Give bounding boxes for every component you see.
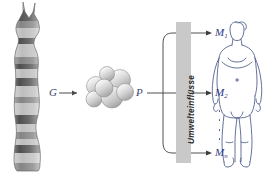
protein-to-manifestation-lines <box>147 33 176 153</box>
m1-index: 1 <box>224 32 227 39</box>
gene-to-protein-arrow <box>59 91 77 96</box>
protein-label: P <box>136 87 143 98</box>
m2-base: M <box>215 86 224 98</box>
m2-index: 2 <box>224 92 227 99</box>
manifestation-label-m1: M1 <box>215 27 228 40</box>
protein-space-filling-model <box>86 67 134 109</box>
m1-base: M <box>215 26 224 38</box>
mn-index: n <box>224 152 227 159</box>
environment-influence-label: Umwelteinflüsse <box>187 75 196 144</box>
diagram-canvas: Umwelteinflüsse G P M1 M2 Mn <box>0 0 267 172</box>
gene-label: G <box>49 87 57 98</box>
manifestation-ellipsis <box>218 110 221 140</box>
manifestation-label-m2: M2 <box>215 87 228 100</box>
mn-base: M <box>215 146 224 158</box>
manifestation-label-mn: Mn <box>215 147 228 160</box>
